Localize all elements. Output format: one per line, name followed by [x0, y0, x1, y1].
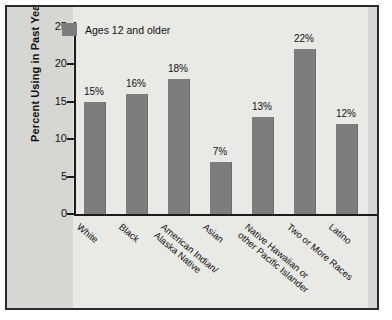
y-axis-line [74, 22, 76, 216]
y-axis-ticks: 2520151050 [7, 7, 67, 308]
chart-container: Percent Using in Past Year 2520151050 15… [5, 5, 379, 310]
bar [336, 124, 358, 214]
bar-value-label: 16% [116, 78, 156, 89]
legend: Ages 12 and older [62, 23, 170, 36]
y-axis-tick-label: 10 [41, 132, 67, 144]
bar-value-label: 18% [158, 63, 198, 74]
legend-swatch-icon [62, 23, 77, 36]
bar-value-label: 22% [284, 33, 324, 44]
bar [168, 79, 190, 214]
bar-value-label: 12% [326, 108, 366, 119]
y-axis-tick-label: 20 [41, 57, 67, 69]
bar-value-label: 7% [200, 146, 240, 157]
bar-value-label: 15% [74, 86, 114, 97]
bar [252, 117, 274, 214]
bar-value-label: 13% [242, 101, 282, 112]
bar [210, 162, 232, 214]
y-axis-tick-label: 5 [41, 170, 67, 182]
legend-label: Ages 12 and older [85, 24, 170, 36]
bar [84, 102, 106, 214]
y-axis-tick-label: 0 [41, 207, 67, 219]
bar [294, 49, 316, 214]
y-axis-tick-label: 15 [41, 95, 67, 107]
bar [126, 94, 148, 214]
x-axis-line [74, 214, 377, 216]
